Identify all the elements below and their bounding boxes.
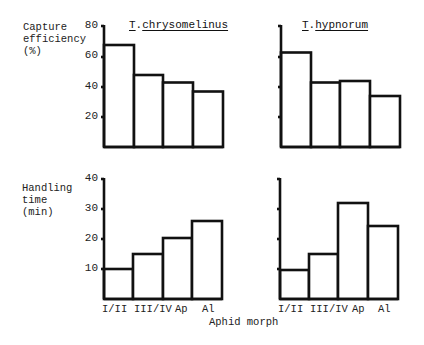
category-label: I/II [278,303,303,315]
category-label: Al [202,303,215,315]
category-label: III/IV [310,303,348,315]
bar-Ap [163,83,193,148]
category-label: Al [378,303,391,315]
bar-Ap [163,238,192,299]
category-label: Ap [352,303,365,315]
bar-I-II [104,269,133,299]
category-label: Ap [175,303,188,315]
chart-canvas [0,0,424,345]
category-label: III/IV [134,303,172,315]
bar-Al [370,96,400,147]
category-label: I/II [102,303,127,315]
bar-III-IV [311,83,340,148]
bar-III-IV [134,75,163,147]
bar-I-II [280,270,309,299]
bar-I-II [281,53,311,148]
bar-Ap [340,81,370,147]
panel-top-right [278,25,400,147]
panel-bottom-right [277,178,398,299]
bar-III-IV [309,254,338,299]
panel-bottom-left [101,178,222,299]
bar-Al [192,221,222,299]
bar-III-IV [133,254,163,299]
bar-Ap [338,203,368,299]
x-axis-title: Aphid morph [209,316,278,328]
bar-I-II [104,45,134,147]
bar-Al [368,226,398,299]
panel-top-left [101,25,223,147]
bar-Al [193,92,223,148]
